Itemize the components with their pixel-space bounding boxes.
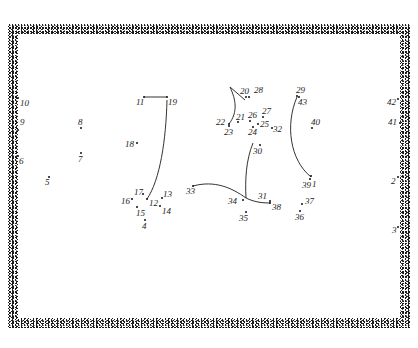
dot-label-29: 29 xyxy=(296,86,305,95)
dot-label-19: 19 xyxy=(168,98,177,107)
dot-label-5: 5 xyxy=(45,178,50,187)
dot-31[interactable] xyxy=(269,200,271,202)
dot-8[interactable] xyxy=(80,127,82,129)
dot-label-25: 25 xyxy=(260,120,269,129)
dot-9[interactable] xyxy=(17,129,19,131)
dot-label-4: 4 xyxy=(142,222,147,231)
dot-label-1: 1 xyxy=(312,180,317,189)
dot-label-14: 14 xyxy=(162,207,171,216)
dot-20[interactable] xyxy=(245,96,247,98)
dot-40[interactable] xyxy=(311,127,313,129)
dot-label-15: 15 xyxy=(136,209,145,218)
dot-10[interactable] xyxy=(17,97,19,99)
dot-label-9: 9 xyxy=(20,118,25,127)
dot-label-17: 17 xyxy=(134,188,143,197)
dot-label-32: 32 xyxy=(273,125,282,134)
dot-label-26: 26 xyxy=(248,111,257,120)
dot-label-6: 6 xyxy=(19,157,24,166)
dots-layer xyxy=(0,0,418,348)
dot-label-2: 2 xyxy=(391,177,396,186)
dot-label-23: 23 xyxy=(224,128,233,137)
dot-label-34: 34 xyxy=(228,197,237,206)
dot-1[interactable] xyxy=(310,175,312,177)
dot-18[interactable] xyxy=(136,142,138,144)
dot-27[interactable] xyxy=(262,116,264,118)
dot-26[interactable] xyxy=(249,120,251,122)
dot-label-33: 33 xyxy=(186,187,195,196)
dot-label-18: 18 xyxy=(125,140,134,149)
dot-label-22: 22 xyxy=(216,118,225,127)
dot-37[interactable] xyxy=(301,203,303,205)
dot-label-37: 37 xyxy=(305,197,314,206)
puzzle-canvas: 1234567891011121314151617181920212223242… xyxy=(0,0,418,348)
dot-label-38: 38 xyxy=(272,203,281,212)
dot-28[interactable] xyxy=(248,96,250,98)
dot-label-39: 39 xyxy=(302,181,311,190)
dot-38[interactable] xyxy=(269,202,271,204)
dot-2[interactable] xyxy=(397,176,399,178)
dot-label-20: 20 xyxy=(240,87,249,96)
dot-label-35: 35 xyxy=(239,214,248,223)
dot-label-27: 27 xyxy=(262,107,271,116)
dot-label-3: 3 xyxy=(392,226,397,235)
dot-label-12: 12 xyxy=(149,199,158,208)
dot-label-21: 21 xyxy=(236,113,245,122)
dot-41[interactable] xyxy=(399,122,401,124)
dot-label-43: 43 xyxy=(298,98,307,107)
dot-label-40: 40 xyxy=(311,118,320,127)
dot-22[interactable] xyxy=(228,123,230,125)
dot-label-31: 31 xyxy=(258,192,267,201)
dot-label-41: 41 xyxy=(388,118,397,127)
dot-label-13: 13 xyxy=(163,190,172,199)
dot-label-8: 8 xyxy=(78,118,83,127)
dot-42[interactable] xyxy=(397,98,399,100)
dot-label-11: 11 xyxy=(136,98,144,107)
dot-label-16: 16 xyxy=(121,197,130,206)
dot-16[interactable] xyxy=(131,198,133,200)
dot-label-30: 30 xyxy=(253,147,262,156)
dot-14[interactable] xyxy=(159,205,161,207)
dot-label-7: 7 xyxy=(78,155,83,164)
dot-34[interactable] xyxy=(242,199,244,201)
dot-label-36: 36 xyxy=(295,213,304,222)
dot-25[interactable] xyxy=(257,123,259,125)
dot-12[interactable] xyxy=(146,198,148,200)
dot-label-42: 42 xyxy=(387,98,396,107)
dot-label-24: 24 xyxy=(248,128,257,137)
dot-label-10: 10 xyxy=(20,99,29,108)
dot-3[interactable] xyxy=(397,226,399,228)
dot-label-28: 28 xyxy=(254,86,263,95)
